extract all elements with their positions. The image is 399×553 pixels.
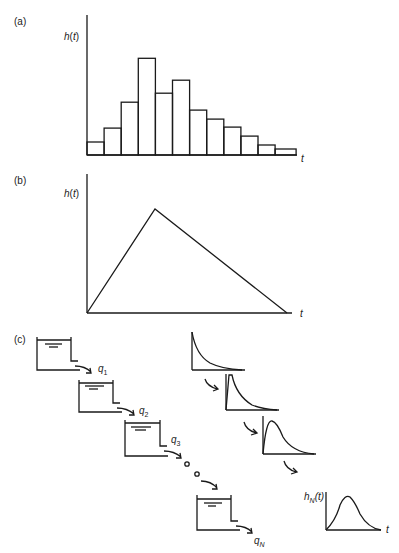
- flow-q1: q1: [98, 363, 108, 376]
- reservoir-2: q2: [79, 380, 149, 418]
- response-1: [192, 332, 245, 391]
- histogram-bar: [138, 58, 155, 155]
- histogram-bars: [87, 58, 296, 155]
- arrow-icon: [284, 461, 297, 474]
- panel-b-label: (b): [14, 175, 26, 186]
- flow-q3: q3: [171, 434, 181, 447]
- arrow-icon: [164, 451, 181, 458]
- histogram-bar: [241, 136, 258, 155]
- histogram-bar: [190, 110, 207, 155]
- histogram-bar: [155, 93, 172, 155]
- histogram-bar: [275, 149, 296, 155]
- histogram-bar: [258, 145, 275, 155]
- panel-b-ylabel: h(t): [64, 188, 79, 199]
- histogram-bar: [104, 128, 121, 155]
- histogram-bar: [87, 142, 104, 155]
- panel-a: (a) h(t) t: [14, 15, 305, 164]
- response-3: [263, 416, 316, 474]
- histogram-bar: [207, 119, 224, 155]
- reservoir-n: qN: [197, 495, 266, 548]
- triangular-hydrograph: [87, 209, 287, 313]
- panel-c-label: (c): [14, 334, 26, 345]
- panel-a-ylabel: h(t): [64, 31, 79, 42]
- output-xlabel: t: [386, 524, 390, 535]
- figure: (a) h(t) t (b) h(t) t (c) q1: [0, 0, 399, 553]
- response-n: hN(t) t: [304, 491, 390, 535]
- ellipsis-dot: [195, 472, 199, 476]
- reservoir-1: q1: [37, 337, 108, 376]
- arrow-icon: [201, 481, 217, 489]
- panel-a-xlabel: t: [301, 153, 305, 164]
- output-ylabel: hN(t): [304, 491, 324, 504]
- reservoir-3: q3: [125, 420, 181, 458]
- flow-q2: q2: [139, 405, 149, 418]
- histogram-bar: [121, 102, 138, 155]
- response-2: [226, 374, 279, 435]
- arrow-icon: [205, 379, 218, 391]
- histogram-bar: [224, 127, 241, 155]
- panel-b-xlabel: t: [300, 308, 304, 319]
- ellipsis-dot: [185, 462, 189, 466]
- histogram-bar: [173, 80, 190, 155]
- panel-a-label: (a): [14, 16, 26, 27]
- panel-b: (b) h(t) t: [14, 174, 304, 319]
- arrow-icon: [244, 422, 257, 435]
- flow-qN: qN: [254, 535, 266, 548]
- panel-c: (c) q1 q2 q3: [14, 332, 390, 548]
